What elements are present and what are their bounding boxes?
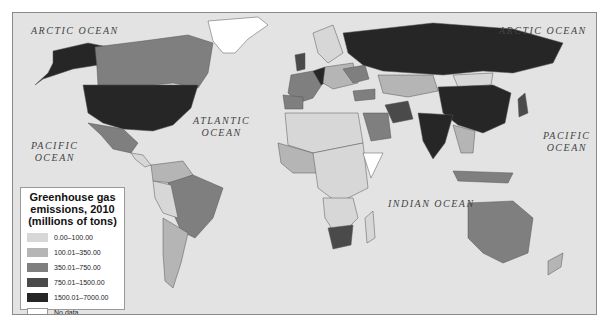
uk <box>295 53 305 71</box>
canada <box>95 35 213 88</box>
atlantic-ocean-label: ATLANTIC OCEAN <box>193 115 250 139</box>
india <box>418 113 453 159</box>
legend-label: 350.01–750.00 <box>54 264 101 271</box>
legend-label: 1500.01–7000.00 <box>54 294 109 301</box>
kazakhstan <box>378 75 438 97</box>
indian-ocean-label: INDIAN OCEAN <box>388 198 475 210</box>
map-frame: ARCTIC OCEAN ARCTIC OCEAN ATLANTIC OCEAN… <box>12 12 597 315</box>
legend-swatch <box>27 263 48 272</box>
legend-item: 750.01–1500.00 <box>27 275 118 290</box>
legend-title: Greenhouse gas emissions, 2010 (millions… <box>27 191 118 227</box>
madagascar <box>365 211 375 243</box>
legend-item: 1500.01–7000.00 <box>27 290 118 305</box>
arctic-ocean-label-east: ARCTIC OCEAN <box>499 25 587 37</box>
legend-swatch <box>27 278 48 287</box>
legend-swatch <box>27 233 48 242</box>
legend-item: 100.01–350.00 <box>27 245 118 260</box>
pacific-ocean-label-west: PACIFIC OCEAN <box>31 140 79 164</box>
japan <box>518 93 528 117</box>
pacific-ocean-east-line2: OCEAN <box>543 142 591 154</box>
mongolia <box>453 73 493 87</box>
legend-item: No data <box>27 305 118 315</box>
legend-title-line3: (millions of tons) <box>27 215 118 227</box>
south-africa <box>328 225 353 249</box>
legend-title-line1: Greenhouse gas <box>27 191 118 203</box>
legend-title-line2: emissions, 2010 <box>27 203 118 215</box>
legend: Greenhouse gas emissions, 2010 (millions… <box>20 187 125 310</box>
iran <box>385 101 413 123</box>
pacific-ocean-west-line2: OCEAN <box>31 152 79 164</box>
legend-item: 0.00–100.00 <box>27 230 118 245</box>
usa <box>83 85 198 131</box>
legend-label: 100.01–350.00 <box>54 249 101 256</box>
legend-label: No data <box>54 309 79 315</box>
new-zealand <box>548 253 563 275</box>
indonesia <box>453 171 513 183</box>
turkey <box>353 89 375 101</box>
legend-label: 0.00–100.00 <box>54 234 93 241</box>
saudi-arabia <box>363 113 391 141</box>
legend-item: 350.01–750.00 <box>27 260 118 275</box>
legend-swatch <box>27 293 48 302</box>
arctic-ocean-label-west: ARCTIC OCEAN <box>31 25 119 37</box>
central-africa <box>313 143 368 203</box>
central-america <box>131 153 151 167</box>
atlantic-ocean-line1: ATLANTIC <box>193 115 250 127</box>
greenland <box>208 17 268 53</box>
atlantic-ocean-line2: OCEAN <box>193 127 250 139</box>
legend-swatch <box>27 248 48 257</box>
legend-swatch <box>27 308 48 315</box>
legend-label: 750.01–1500.00 <box>54 279 105 286</box>
pacific-ocean-west-line1: PACIFIC <box>31 140 79 152</box>
scandinavia <box>313 25 343 63</box>
spain <box>283 95 303 109</box>
pacific-ocean-label-east: PACIFIC OCEAN <box>543 130 591 154</box>
australia <box>468 201 533 263</box>
pacific-ocean-east-line1: PACIFIC <box>543 130 591 142</box>
